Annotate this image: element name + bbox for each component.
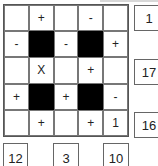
row-result-1: 1 bbox=[134, 5, 158, 31]
operator-cell: - bbox=[4, 31, 29, 57]
black-cell bbox=[29, 84, 54, 110]
col-result-1: 12 bbox=[3, 143, 28, 166]
black-cell bbox=[78, 84, 103, 110]
operator-cell: + bbox=[4, 84, 29, 110]
operator-cell: + bbox=[78, 57, 103, 83]
operator-cell: + bbox=[103, 31, 128, 57]
cropped-header-remnant bbox=[100, 0, 158, 2]
row-result-5: 16 bbox=[134, 112, 158, 138]
operator-cell: + bbox=[29, 110, 54, 136]
operator-cell: + bbox=[29, 5, 54, 31]
number-cell[interactable] bbox=[54, 5, 79, 31]
number-cell[interactable] bbox=[54, 110, 79, 136]
operator-cell: X bbox=[29, 57, 54, 83]
col-result-5: 10 bbox=[103, 143, 129, 166]
black-cell bbox=[29, 31, 54, 57]
operator-cell: - bbox=[78, 5, 103, 31]
black-cell bbox=[78, 31, 103, 57]
operator-cell: + bbox=[54, 84, 79, 110]
operator-cell: - bbox=[103, 84, 128, 110]
operator-cell: + bbox=[78, 110, 103, 136]
operator-cell: - bbox=[54, 31, 79, 57]
number-cell[interactable] bbox=[103, 57, 128, 83]
row-result-3: 17 bbox=[134, 59, 158, 85]
number-cell[interactable] bbox=[4, 57, 29, 83]
number-cell: 1 bbox=[103, 110, 128, 136]
number-cell[interactable] bbox=[4, 110, 29, 136]
number-cell[interactable] bbox=[54, 57, 79, 83]
number-cell[interactable] bbox=[103, 5, 128, 31]
number-cell[interactable] bbox=[4, 5, 29, 31]
col-result-3: 3 bbox=[53, 143, 79, 166]
puzzle-grid: +---+X+++-++1 bbox=[3, 4, 129, 137]
